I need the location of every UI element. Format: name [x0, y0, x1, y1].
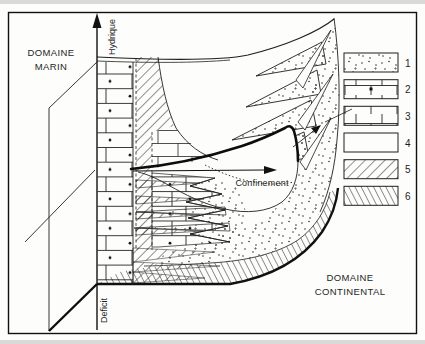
scan-edge-bottom — [0, 340, 425, 344]
marine-domain-label-line1: DOMAINE — [27, 47, 74, 58]
legend-swatch-3 — [344, 106, 398, 125]
legend-swatch-1 — [344, 53, 398, 72]
legend-swatch-5 — [344, 160, 398, 179]
diagram-svg: Confinement DOMAINE MARIN DOMAINE CONTIN… — [0, 0, 425, 344]
axis-bottom-label: Deficit — [99, 297, 109, 323]
legend-number-5: 5 — [405, 164, 411, 175]
legend-swatch-2-dot — [370, 88, 373, 91]
axis-top-label: Hydrique — [107, 19, 117, 55]
legend-swatch-6 — [344, 186, 398, 205]
legend-number-4: 4 — [405, 138, 411, 149]
legend-number-1: 1 — [405, 58, 411, 69]
marine-domain-label-line2: MARIN — [35, 61, 68, 72]
legend-swatch-4 — [344, 133, 398, 152]
perspective-edge-mid — [25, 170, 95, 242]
legend-number-2: 2 — [405, 84, 411, 95]
marine-column — [98, 62, 134, 284]
continental-domain-label-line1: DOMAINE — [326, 272, 373, 283]
scan-edge-top — [0, 0, 425, 4]
figure-canvas: Confinement DOMAINE MARIN DOMAINE CONTIN… — [0, 0, 425, 344]
axis-arrowhead-icon — [93, 13, 102, 28]
legend-number-6: 6 — [405, 191, 411, 202]
confinement-label: Confinement — [235, 178, 289, 188]
legend-number-3: 3 — [405, 111, 411, 122]
perspective-edge-base — [49, 284, 97, 331]
continental-domain-label-line2: CONTINENTAL — [315, 286, 386, 297]
legend: 1 2 3 4 5 6 — [344, 53, 411, 205]
